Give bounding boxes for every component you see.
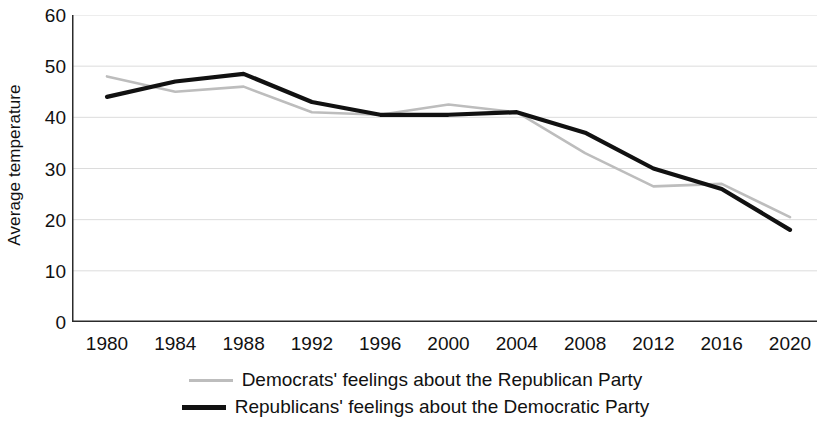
y-tick-label: 20 (26, 211, 66, 230)
legend-line-swatch-democrats (189, 373, 233, 387)
x-tick-label: 2020 (755, 333, 825, 355)
y-tick-label: 30 (26, 160, 66, 179)
legend-label-democrats: Democrats' feelings about the Republican… (242, 369, 643, 391)
x-tick-label: 1980 (72, 333, 142, 355)
x-tick-label: 1984 (140, 333, 210, 355)
line-chart-figure: Average temperature 0102030405060 198019… (0, 0, 831, 425)
y-tick-label: 40 (26, 108, 66, 127)
x-tick-label: 2012 (618, 333, 688, 355)
chart-legend: Democrats' feelings about the Republican… (0, 366, 831, 424)
x-tick-label: 2008 (550, 333, 620, 355)
legend-label-republicans: Republicans' feelings about the Democrat… (235, 396, 649, 418)
x-tick-label: 2000 (414, 333, 484, 355)
data-series-line (107, 74, 790, 230)
x-tick-label: 2016 (687, 333, 757, 355)
y-tick-label: 60 (26, 6, 66, 25)
plot-svg (72, 15, 817, 322)
x-tick-label: 1996 (345, 333, 415, 355)
y-tick-label: 50 (26, 57, 66, 76)
legend-item-democrats: Democrats' feelings about the Republican… (0, 366, 831, 393)
data-series-line (107, 76, 790, 217)
legend-line-swatch-republicans (182, 400, 226, 414)
legend-item-republicans: Republicans' feelings about the Democrat… (0, 393, 831, 420)
y-axis-tick-labels: 0102030405060 (14, 15, 66, 322)
x-axis-tick-labels: 1980198419881992199620002004200820122016… (72, 333, 817, 359)
x-tick-label: 2004 (482, 333, 552, 355)
y-tick-label: 10 (26, 262, 66, 281)
x-tick-label: 1988 (209, 333, 279, 355)
y-tick-label: 0 (26, 313, 66, 332)
plot-area (72, 15, 817, 322)
x-tick-label: 1992 (277, 333, 347, 355)
